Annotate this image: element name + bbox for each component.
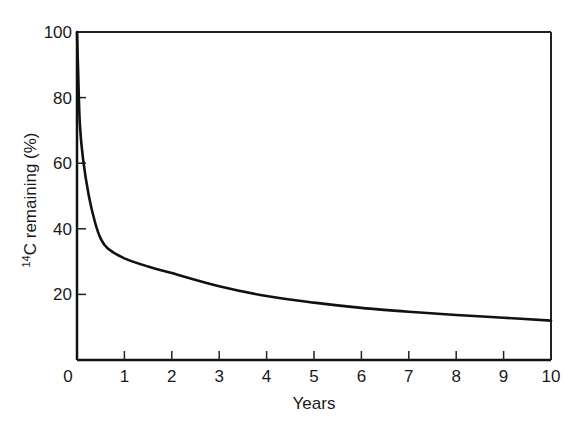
- x-tick-label: 1: [120, 367, 129, 386]
- y-axis-title: 14C remaining (%): [20, 132, 40, 267]
- x-tick-label: 8: [451, 367, 460, 386]
- x-tick-label: 0: [63, 367, 72, 386]
- y-axis-title-main: C remaining (%): [21, 132, 40, 255]
- y-tick-label: 20: [53, 285, 72, 304]
- y-tick-label: 60: [53, 154, 72, 173]
- plot-frame: [77, 32, 551, 360]
- x-tick-label: 9: [499, 367, 508, 386]
- x-tick-label: 10: [542, 367, 561, 386]
- x-tick-label: 7: [404, 367, 413, 386]
- x-tick-label: 3: [214, 367, 223, 386]
- x-tick-label: 2: [167, 367, 176, 386]
- x-tick-label: 6: [357, 367, 366, 386]
- series: [77, 32, 551, 321]
- x-axis-title: Years: [293, 394, 336, 413]
- y-tick-label: 80: [53, 89, 72, 108]
- x-tick-label: 5: [309, 367, 318, 386]
- chart: 012345678910 20406080100 Years 14C remai…: [0, 0, 576, 424]
- x-ticks: 012345678910: [63, 351, 560, 386]
- y-axis-title-superscript: 14: [20, 255, 32, 267]
- x-tick-label: 4: [262, 367, 271, 386]
- y-tick-label: 40: [53, 220, 72, 239]
- y-tick-label: 100: [44, 23, 72, 42]
- decay-curve: [77, 32, 551, 321]
- y-ticks: 20406080100: [44, 23, 86, 304]
